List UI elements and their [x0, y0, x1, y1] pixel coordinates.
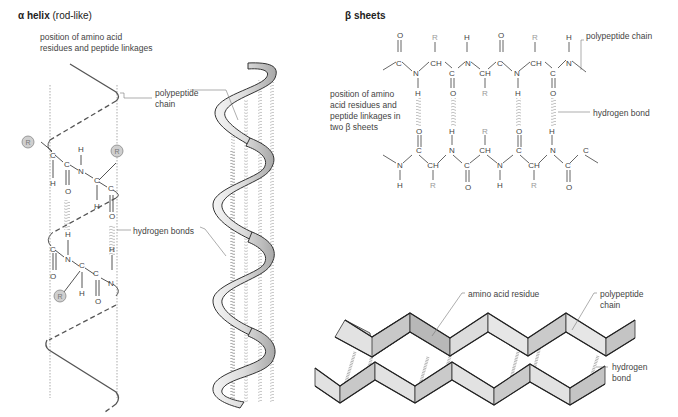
svg-text:O: O	[550, 89, 556, 98]
svg-text:R: R	[531, 181, 537, 190]
svg-text:C: C	[108, 184, 114, 193]
svg-text:R: R	[432, 33, 438, 42]
svg-text:C: C	[396, 59, 402, 68]
figure-caption-cut-off	[18, 412, 178, 417]
beta-atoms: O H O H C N CH C N CH C N CH C N H O H O…	[396, 31, 589, 192]
svg-text:R: R	[430, 181, 436, 190]
svg-text:O: O	[416, 127, 422, 136]
protein-structure-diagram: C C N H C C H O H O H C N C C N H O H O …	[0, 0, 678, 417]
pleated-sheet-3d	[315, 293, 635, 405]
svg-text:H: H	[415, 89, 421, 98]
svg-text:N: N	[465, 59, 471, 68]
svg-text:H: H	[94, 202, 100, 211]
svg-text:C: C	[516, 146, 522, 155]
svg-text:H: H	[566, 33, 572, 42]
svg-text:O: O	[498, 31, 504, 40]
svg-text:N: N	[108, 279, 114, 288]
svg-text:O: O	[65, 187, 71, 196]
alpha-helix-schematic: C C N H C C H O H O H C N C C N H O H O …	[22, 64, 152, 412]
svg-text:H: H	[497, 181, 503, 190]
svg-text:O: O	[397, 31, 403, 40]
svg-text:N: N	[514, 69, 520, 78]
svg-text:CH: CH	[430, 59, 442, 68]
svg-text:CH: CH	[479, 69, 491, 78]
svg-text:C: C	[550, 69, 556, 78]
svg-text:R: R	[57, 293, 62, 300]
svg-text:N: N	[566, 59, 572, 68]
svg-text:C: C	[79, 261, 85, 270]
svg-text:O: O	[50, 272, 56, 281]
svg-text:C: C	[93, 269, 99, 278]
svg-text:CH: CH	[479, 146, 491, 155]
svg-text:H: H	[79, 289, 85, 298]
svg-text:CH: CH	[530, 59, 542, 68]
svg-text:O: O	[566, 183, 572, 192]
svg-text:H: H	[449, 127, 455, 136]
svg-text:H: H	[109, 245, 115, 254]
svg-text:R: R	[532, 33, 538, 42]
svg-text:C: C	[449, 69, 455, 78]
svg-text:H: H	[50, 179, 56, 188]
residue-r-icons: R R R	[22, 136, 123, 302]
svg-text:O: O	[109, 212, 115, 221]
svg-text:H: H	[397, 181, 403, 190]
svg-text:CH: CH	[528, 161, 540, 170]
svg-text:H: H	[78, 145, 84, 154]
svg-text:R: R	[25, 139, 30, 146]
svg-text:N: N	[65, 255, 71, 264]
svg-text:C: C	[64, 160, 70, 169]
svg-text:N: N	[413, 69, 419, 78]
svg-text:O: O	[516, 127, 522, 136]
beta-hbond-coils	[416, 98, 556, 126]
svg-text:O: O	[465, 183, 471, 192]
svg-text:H: H	[464, 33, 470, 42]
svg-text:N: N	[550, 146, 556, 155]
alpha-helix-ribbon	[190, 63, 276, 408]
svg-text:R: R	[482, 89, 488, 98]
svg-text:H: H	[515, 89, 521, 98]
svg-text:H: H	[65, 230, 71, 239]
svg-text:N: N	[78, 167, 84, 176]
svg-text:R: R	[114, 148, 119, 155]
svg-text:C: C	[50, 151, 56, 160]
svg-text:C: C	[464, 161, 470, 170]
svg-text:N: N	[397, 161, 403, 170]
svg-text:C: C	[94, 176, 100, 185]
svg-text:C: C	[565, 161, 571, 170]
svg-text:O: O	[95, 297, 101, 306]
svg-text:CH: CH	[427, 161, 439, 170]
svg-text:C: C	[583, 146, 589, 155]
svg-text:H: H	[549, 127, 555, 136]
svg-text:C: C	[497, 59, 503, 68]
svg-text:N: N	[497, 161, 503, 170]
svg-text:N: N	[449, 146, 455, 155]
svg-text:R: R	[482, 127, 488, 136]
svg-text:C: C	[416, 146, 422, 155]
svg-text:C: C	[50, 245, 56, 254]
svg-text:O: O	[450, 89, 456, 98]
